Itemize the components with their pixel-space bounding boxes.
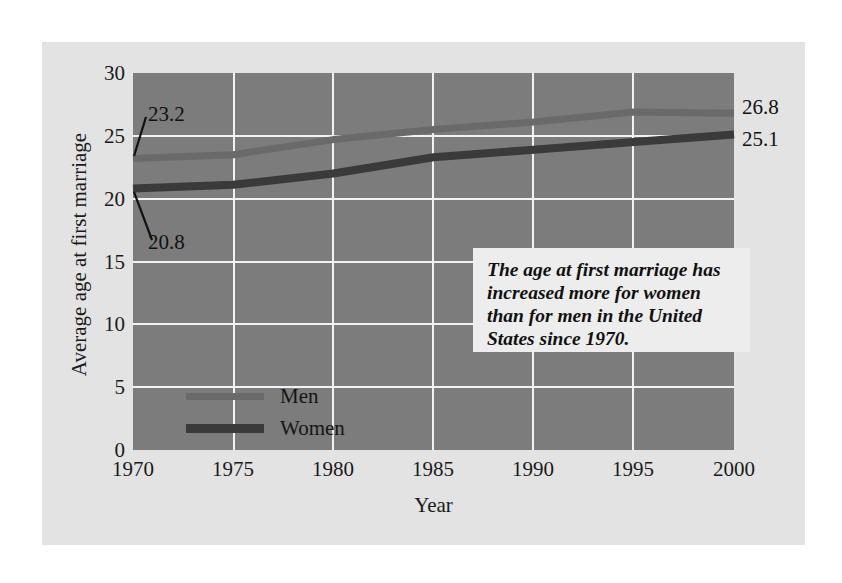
legend-label-men: Men (280, 386, 319, 407)
legend-swatch-men (186, 393, 264, 400)
annotation-callout-box: The age at first marriage has increased … (473, 248, 750, 352)
value-label-women-2000: 25.1 (742, 129, 779, 150)
value-label-men-1970: 23.2 (148, 104, 185, 125)
figure-card: 30 25 20 15 10 5 0 1970 1975 1980 1985 1… (42, 42, 805, 545)
legend: Men Women (186, 380, 416, 444)
value-label-men-2000: 26.8 (742, 97, 779, 118)
legend-label-women: Women (280, 418, 345, 439)
x-axis-title: Year (133, 493, 734, 518)
annotation-callout-text: The age at first marriage has increased … (487, 258, 738, 350)
legend-swatch-women (186, 424, 264, 433)
x-tick-1970: 1970 (112, 459, 154, 480)
x-tick-1995: 1995 (612, 459, 654, 480)
legend-item-men: Men (186, 380, 416, 412)
chart-frame: 30 25 20 15 10 5 0 1970 1975 1980 1985 1… (42, 42, 805, 545)
x-tick-1985: 1985 (412, 459, 454, 480)
line-women (133, 135, 734, 189)
y-tick-30: 30 (65, 63, 125, 84)
x-tick-2000: 2000 (713, 459, 755, 480)
y-axis-title: Average age at first marriage (67, 95, 92, 415)
line-men (133, 112, 734, 159)
value-label-women-1970: 20.8 (148, 232, 185, 253)
x-axis-ticks: 1970 1975 1980 1985 1990 1995 2000 (133, 459, 734, 485)
legend-item-women: Women (186, 412, 416, 444)
x-tick-1980: 1980 (312, 459, 354, 480)
x-tick-1975: 1975 (212, 459, 254, 480)
x-tick-1990: 1990 (512, 459, 554, 480)
